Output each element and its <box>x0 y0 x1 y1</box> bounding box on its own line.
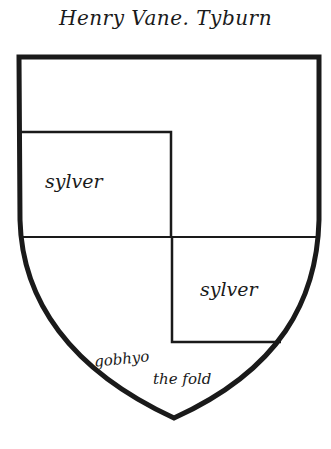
tincture-label-lower-right: sylver <box>200 278 258 300</box>
motto-line-2: the fold <box>153 370 211 388</box>
tincture-label-upper-left: sylver <box>45 170 103 192</box>
